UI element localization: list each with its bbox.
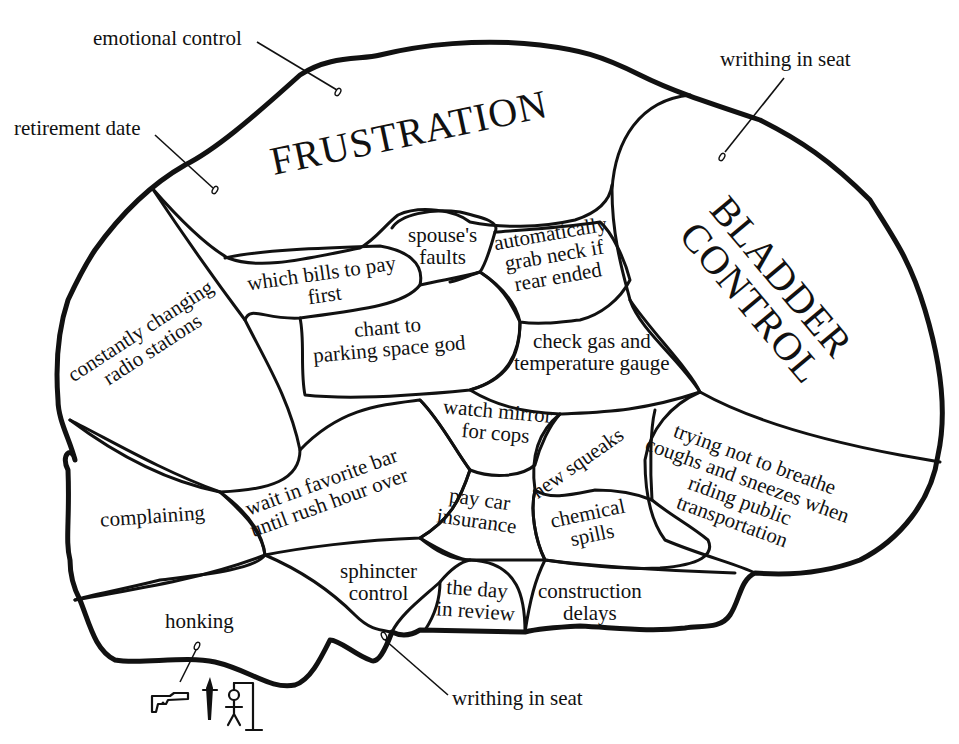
region-check-gas: check gas and temperature gauge bbox=[514, 330, 670, 374]
sphincter-line-1: sphincter bbox=[340, 560, 417, 582]
label-retirement-date: retirement date bbox=[14, 117, 141, 139]
region-day-in-review: the day in review bbox=[436, 575, 518, 624]
gas-line-1: check gas and bbox=[514, 330, 670, 352]
label-emotional-control: emotional control bbox=[93, 27, 242, 49]
construction-region bbox=[545, 560, 735, 573]
leader-honking bbox=[180, 650, 196, 682]
spouse-line-2: faults bbox=[408, 246, 477, 268]
region-sphincter-control: sphincter control bbox=[340, 560, 417, 604]
pin-honking bbox=[193, 641, 201, 650]
region-spouses-faults: spouse's faults bbox=[408, 224, 477, 268]
region-watch-mirror: watch mirror for cops bbox=[440, 395, 552, 448]
leader-emotional-control bbox=[257, 42, 337, 90]
label-writhing-in-seat-bottom: writhing in seat bbox=[452, 687, 583, 709]
construction-line-2: delays bbox=[538, 602, 642, 624]
region-construction-delays: construction delays bbox=[538, 580, 642, 624]
label-writhing-in-seat-top: writhing in seat bbox=[720, 48, 851, 70]
leader-writhing-top bbox=[725, 78, 784, 152]
sphincter-line-2: control bbox=[340, 582, 417, 604]
gallows-stick-figure-icon bbox=[226, 683, 262, 730]
pistol-icon bbox=[152, 693, 188, 712]
dagger-icon bbox=[203, 677, 217, 720]
region-honking: honking bbox=[165, 610, 234, 632]
spouse-line-1: spouse's bbox=[408, 224, 477, 246]
leader-writhing-bottom bbox=[385, 640, 448, 695]
construction-line-1: construction bbox=[538, 580, 642, 602]
review-line-2: in review bbox=[436, 597, 516, 624]
pin-writhing-bottom bbox=[380, 631, 388, 640]
pin-writhing-top bbox=[718, 152, 726, 161]
gas-line-2: temperature gauge bbox=[514, 352, 670, 374]
